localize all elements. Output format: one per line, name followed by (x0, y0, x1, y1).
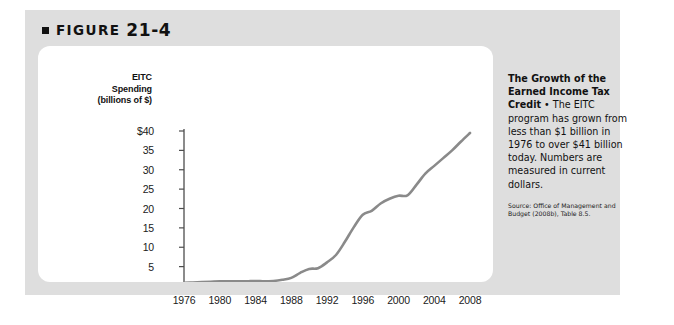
figure-label: FIGURE (56, 22, 120, 38)
x-tick-label-1996: 1996 (351, 294, 374, 306)
x-tick-label-1984: 1984 (244, 294, 267, 306)
figure-number: 21-4 (126, 20, 171, 40)
x-axis-tick-labels: 197619801984198819921996200020042008 (38, 46, 493, 282)
caption-body: The EITC program has grown from less tha… (508, 99, 627, 189)
x-tick-label-2000: 2000 (387, 294, 410, 306)
x-tick-label-2004: 2004 (423, 294, 446, 306)
chart-plot-area: EITCSpending(billions of $) 510152025303… (38, 46, 493, 282)
caption-separator: • (541, 99, 553, 110)
caption-block: The Growth of the Earned Income Tax Cred… (508, 72, 634, 219)
caption-source: Source: Office of Management and Budget … (508, 191, 634, 219)
chart-card: EITCSpending(billions of $) 510152025303… (38, 46, 493, 282)
square-bullet-icon (42, 27, 49, 34)
caption-text: The Growth of the Earned Income Tax Cred… (508, 72, 634, 191)
x-tick-label-1988: 1988 (280, 294, 303, 306)
x-tick-label-1980: 1980 (208, 294, 231, 306)
figure-header: FIGURE 21-4 (25, 10, 620, 50)
x-tick-label-2008: 2008 (459, 294, 482, 306)
x-tick-label-1992: 1992 (316, 294, 339, 306)
x-tick-label-1976: 1976 (173, 294, 196, 306)
figure-panel: FIGURE 21-4 EITCSpending(billions of $) … (25, 10, 620, 295)
